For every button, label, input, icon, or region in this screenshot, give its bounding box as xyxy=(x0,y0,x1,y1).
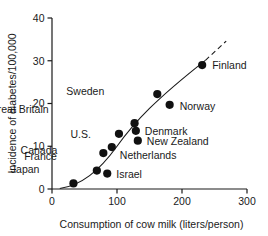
data-point-new-zealand xyxy=(134,137,142,145)
x-axis-title: Consumption of cow milk (liters/person) xyxy=(60,218,244,230)
data-point-finland xyxy=(198,61,206,69)
point-label-new-zealand: New Zealand xyxy=(147,135,209,147)
point-label-sweden: Sweden xyxy=(66,85,104,97)
data-point-norway xyxy=(166,101,174,109)
data-point-u-s xyxy=(115,130,123,138)
point-labels: JapanFranceIsraelCanadaNetherlandsU.S.Gr… xyxy=(0,59,247,180)
data-point-israel xyxy=(103,170,111,178)
data-point-japan xyxy=(69,179,77,187)
data-point-netherlands xyxy=(108,143,116,151)
y-tick-label: 30 xyxy=(33,55,45,67)
point-label-u-s: U.S. xyxy=(71,128,91,140)
data-point-denmark xyxy=(132,127,140,135)
data-point-great-britain xyxy=(130,119,138,127)
point-label-netherlands: Netherlands xyxy=(120,149,177,161)
trend-line-dashed-extension xyxy=(205,41,226,60)
y-tick-label: 0 xyxy=(39,183,45,195)
axes xyxy=(48,18,248,194)
diabetes-milk-scatter-chart: 0102030400100200300 JapanFranceIsraelCan… xyxy=(0,0,268,236)
x-tick-label: 0 xyxy=(49,195,55,207)
x-tick-label: 100 xyxy=(108,195,126,207)
y-tick-label: 40 xyxy=(33,12,45,24)
x-tick-label: 300 xyxy=(238,195,256,207)
tick-labels: 0102030400100200300 xyxy=(33,12,256,207)
data-point-sweden xyxy=(153,90,161,98)
data-point-canada xyxy=(99,149,107,157)
y-axis-title: Incidence of diabetes/100,000 xyxy=(6,33,18,173)
point-label-finland: Finland xyxy=(212,59,247,71)
point-label-norway: Norway xyxy=(180,100,216,112)
point-label-canada: Canada xyxy=(21,144,58,156)
data-point-france xyxy=(93,167,101,175)
point-label-israel: Israel xyxy=(116,168,142,180)
x-tick-label: 200 xyxy=(173,195,191,207)
plot-area: 0102030400100200300 JapanFranceIsraelCan… xyxy=(0,0,268,236)
